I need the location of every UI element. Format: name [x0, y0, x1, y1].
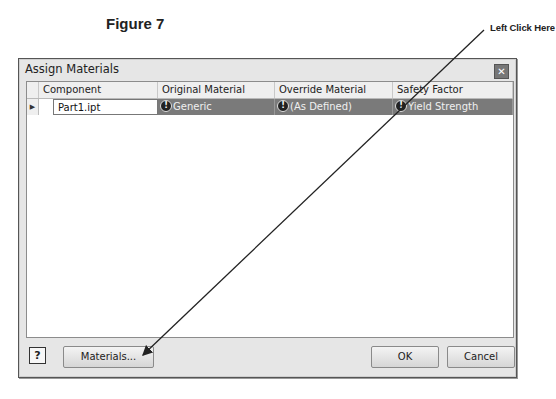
callout-arrow [0, 0, 556, 399]
